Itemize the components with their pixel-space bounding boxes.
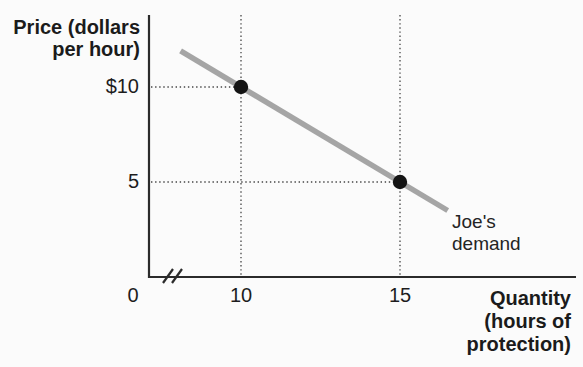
- x-tick-label: 15: [375, 284, 425, 307]
- x-tick-label: 10: [216, 284, 266, 307]
- curve-label-line1: Joe's: [452, 211, 521, 233]
- y-axis-title-line1: Price (dollars: [13, 16, 140, 38]
- y-axis-title: Price (dollars per hour): [13, 16, 140, 60]
- x-tick-label: 0: [108, 284, 158, 307]
- x-axis-title: Quantity (hours of protection): [467, 287, 571, 356]
- x-axis-title-line3: protection): [467, 333, 571, 356]
- x-axis-title-line2: (hours of: [467, 310, 571, 333]
- data-point: [234, 80, 248, 94]
- data-point: [393, 175, 407, 189]
- x-axis-title-line1: Quantity: [467, 287, 571, 310]
- curve-label: Joe's demand: [452, 211, 521, 255]
- y-tick-label: $10: [69, 75, 139, 98]
- curve-label-line2: demand: [452, 233, 521, 255]
- y-axis-title-line2: per hour): [13, 38, 140, 60]
- demand-chart-figure: Price (dollars per hour) Quantity (hours…: [0, 0, 583, 367]
- y-tick-label: 5: [69, 170, 139, 193]
- demand-curve: [181, 51, 448, 211]
